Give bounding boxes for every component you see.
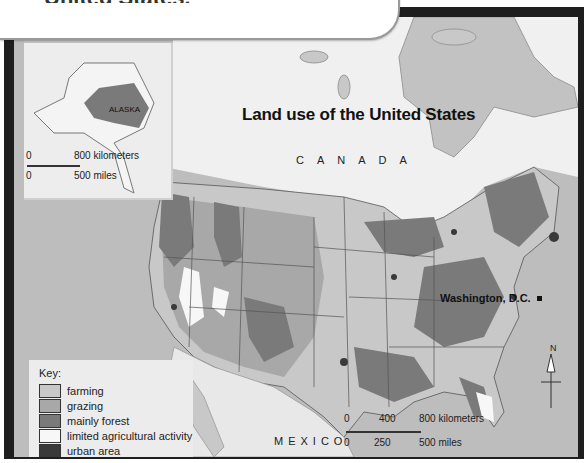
key-label: mainly forest [67,415,129,427]
scale-km-800: 800 kilometers [419,413,484,424]
inset-scale-km-max: 800 kilometers [74,150,139,161]
forest-swatch [39,414,61,428]
map-key: Key: farming grazing mainly forest limit… [29,360,193,457]
inset-scale-bar [27,165,80,167]
alaska-label: ALASKA [109,105,140,114]
map-frame: ALASKA 0 800 kilometers 0 500 miles Land… [4,7,584,459]
key-label: urban area [67,445,120,457]
header-bubble: United States. [0,0,400,40]
grazing-swatch [39,399,61,413]
key-item-grazing: grazing [39,399,103,413]
scale-mi-250: 250 [374,437,391,448]
scale-km-400: 400 [379,413,396,424]
scale-mi-500: 500 miles [419,437,462,448]
inset-scale-km-zero: 0 [26,150,32,161]
capital-label: Washington, D.C. [440,292,531,304]
key-label: limited agricultural activity [67,430,192,442]
key-item-farming: farming [39,384,104,398]
urban-swatch [39,444,61,457]
key-label: farming [67,385,104,397]
capital-marker [537,296,542,301]
farming-swatch [39,384,61,398]
main-scale-bar [346,431,421,433]
key-label: grazing [67,400,103,412]
land-use-map: ALASKA 0 800 kilometers 0 500 miles Land… [14,17,578,457]
scale-mi-0: 0 [344,437,350,448]
limited-swatch [39,429,61,443]
inset-scale-mi-max: 500 miles [74,170,117,181]
key-title: Key: [39,367,61,379]
mexico-label: MEXICO [274,435,347,447]
key-item-forest: mainly forest [39,414,129,428]
canada-label: CANADA [296,154,420,166]
key-item-urban: urban area [39,444,120,457]
scale-km-0: 0 [344,413,350,424]
header-title: United States. [44,0,191,3]
key-item-limited: limited agricultural activity [39,429,192,443]
inset-scale-mi-zero: 0 [26,170,32,181]
compass-arrow-icon [539,352,563,412]
map-title: Land use of the United States [242,105,475,125]
